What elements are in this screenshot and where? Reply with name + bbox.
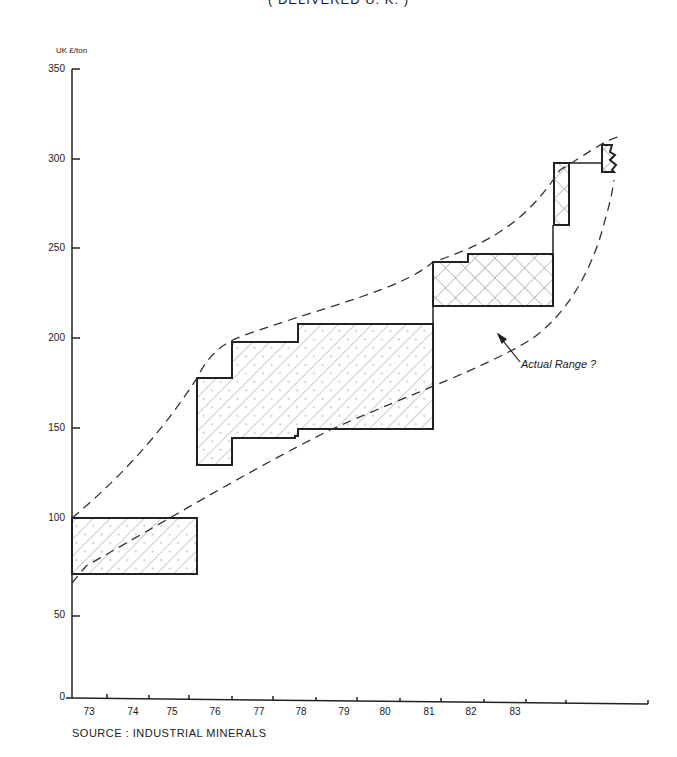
x-axis [72,694,648,704]
annotation-arrow [498,334,520,362]
y-axis [66,69,80,698]
price-band-73-74 [72,518,197,574]
price-band-83 [602,145,616,172]
price-band-80-81 [433,254,553,306]
price-band-82 [554,163,569,225]
price-band-75-79 [197,324,433,465]
chart-plot [0,0,677,757]
